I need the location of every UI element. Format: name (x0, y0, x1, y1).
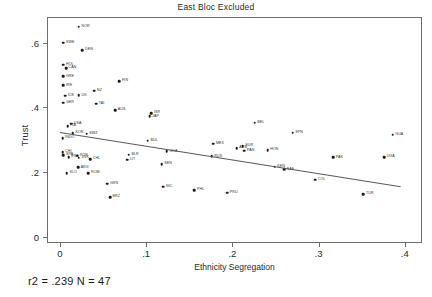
scatter-point (106, 182, 109, 185)
scatter-point-label: GRE (66, 74, 74, 78)
x-tick-mark (319, 243, 320, 247)
scatter-point-label: JAP (152, 114, 159, 118)
y-tick-label: 0 (0, 231, 39, 242)
scatter-point (193, 189, 196, 192)
scatter-point-label: UK (81, 93, 86, 97)
scatter-point-label: GER (66, 100, 74, 104)
x-tick-label: .4 (401, 248, 409, 259)
scatter-point (332, 156, 335, 159)
scatter-point-label: COL (318, 177, 326, 181)
scatter-point (212, 142, 215, 145)
scatter-point (62, 42, 65, 45)
scatter-point (65, 67, 68, 70)
scatter-point (314, 178, 317, 181)
scatter-point-label: MEX (216, 141, 224, 145)
scatter-point-label: GRN (110, 181, 118, 185)
scatter-point-label: PHL (197, 187, 204, 191)
scatter-point (383, 156, 386, 159)
scatter-point (147, 139, 150, 142)
scatter-point-label: HON (270, 147, 278, 151)
scatter-point-label: LIT (130, 157, 136, 161)
scatter-point (66, 172, 69, 175)
scatter-point-label: SLO (69, 170, 77, 174)
scatter-point-label: TAI (99, 101, 105, 105)
scatter-point (78, 94, 81, 97)
scatter-point-label: PRU (230, 190, 238, 194)
scatter-point (128, 153, 131, 156)
scatter-point-label: AUS (118, 107, 126, 111)
x-tick-mark (146, 243, 147, 247)
scatter-point-label: UGA (387, 154, 395, 158)
scatter-point (78, 25, 81, 28)
scatter-point (109, 196, 112, 199)
x-tick-mark (60, 243, 61, 247)
scatter-point (62, 84, 65, 87)
scatter-point-label: NZ (97, 88, 102, 92)
scatter-point (66, 125, 69, 128)
scatter-point (266, 149, 269, 152)
scatter-point (253, 122, 256, 125)
scatter-point (291, 131, 294, 134)
scatter-point-label: SEN (164, 161, 172, 165)
scatter-point-label: ARG (81, 165, 89, 169)
scatter-points-layer: NORSWEDENHOLCANGREIREFINNZICEUKGERTAIAUS… (47, 17, 422, 243)
scatter-point (85, 133, 88, 136)
scatter-point-label: ROM (91, 170, 100, 174)
scatter-point (162, 186, 165, 189)
scatter-point-label: BEL (257, 120, 264, 124)
scatter-point (95, 102, 98, 105)
scatter-point-label: PAN (247, 148, 254, 152)
scatter-point (62, 154, 65, 157)
scatter-point (226, 191, 229, 194)
chart-title: East Bloc Excluded (0, 2, 432, 12)
scatter-point (78, 156, 81, 159)
scatter-point (89, 158, 92, 161)
x-tick-mark (232, 243, 233, 247)
scatter-point-label: ICE (68, 93, 74, 97)
scatter-point-label: SWZ (89, 131, 97, 135)
scatter-point (391, 133, 394, 136)
scatter-point (62, 102, 65, 105)
x-axis-label: Ethnicity Segregation (47, 262, 422, 272)
scatter-point (67, 156, 70, 159)
scatter-point-label: FIN (122, 78, 128, 82)
chart-container: East Bloc Excluded 0.2.4.60.1.2.3.4 Trus… (0, 0, 432, 297)
scatter-point (160, 163, 163, 166)
scatter-point (166, 150, 169, 153)
scatter-point-label: PAK (336, 155, 343, 159)
scatter-point-label: DEN (85, 47, 93, 51)
scatter-point-label: BRZ (113, 194, 121, 198)
scatter-point (62, 75, 65, 78)
scatter-point (81, 49, 84, 52)
scatter-point (118, 80, 121, 83)
x-tick-label: .1 (142, 248, 150, 259)
scatter-point (61, 151, 64, 154)
scatter-point-label: SPN (295, 130, 303, 134)
scatter-point-label: CAN (69, 65, 77, 69)
scatter-point-label: SWE (66, 40, 75, 44)
y-axis-label: Trust (19, 96, 30, 176)
scatter-point (77, 166, 80, 169)
x-tick-label: .3 (315, 248, 323, 259)
x-tick-label: .2 (228, 248, 236, 259)
scatter-point (93, 89, 96, 92)
scatter-point (235, 147, 238, 150)
scatter-point-label: CHL (93, 156, 101, 160)
scatter-point (148, 115, 151, 118)
scatter-point-label: ITA (70, 123, 76, 127)
scatter-point-label: BLR (131, 152, 138, 156)
regression-line (60, 132, 401, 187)
scatter-point-label: TUR (366, 191, 374, 195)
y-tick-label: .6 (0, 37, 39, 48)
scatter-point (64, 94, 67, 97)
scatter-point-label: GUA (395, 132, 403, 136)
scatter-point (126, 158, 129, 161)
chart-caption: r2 = .239 N = 47 (28, 275, 111, 287)
scatter-point (362, 193, 365, 196)
scatter-point (87, 172, 90, 175)
scatter-point (61, 137, 64, 140)
scatter-point-label: BUL (150, 138, 157, 142)
scatter-point (243, 149, 246, 152)
x-tick-mark (405, 243, 406, 247)
scatter-point-label: NIC (166, 184, 173, 188)
